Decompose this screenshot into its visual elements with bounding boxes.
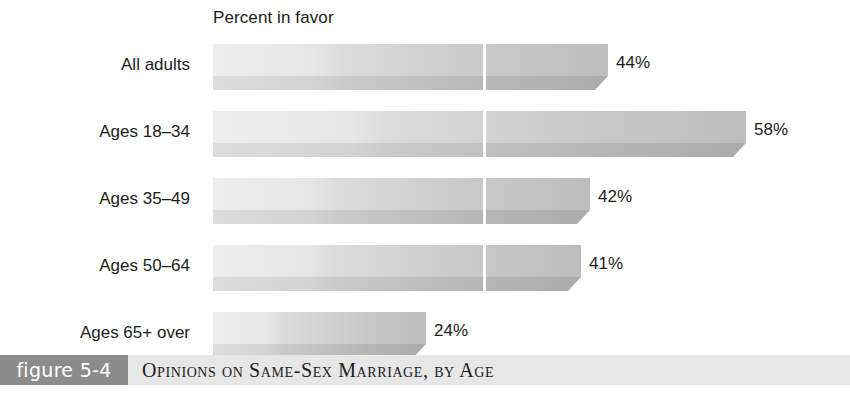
figure-number-badge: figure 5-4	[0, 355, 128, 385]
category-label: All adults	[0, 55, 190, 75]
bar-row: Ages 35–49 42%	[0, 178, 850, 234]
plot-area: All adults 44% Ages 18–34 58% Ages 35–49…	[0, 44, 850, 344]
bar-row: All adults 44%	[0, 44, 850, 100]
vertical-gridline	[483, 44, 486, 344]
value-label: 42%	[598, 187, 632, 207]
value-label: 44%	[616, 53, 650, 73]
bar-top-face	[213, 111, 746, 143]
figure-caption-bar: figure 5-4 Opinions on Same-Sex Marriage…	[0, 355, 850, 385]
axis-title: Percent in favor	[213, 8, 334, 28]
value-label: 24%	[434, 321, 468, 341]
bar-row: Ages 50–64 41%	[0, 245, 850, 301]
bar-bottom-face	[213, 76, 608, 90]
bar	[213, 178, 590, 224]
bar-top-face	[213, 312, 426, 344]
bar-bottom-face	[213, 277, 581, 291]
bar-bottom-face	[213, 143, 746, 157]
bar	[213, 245, 581, 291]
figure-container: Percent in favor All adults 44% Ages 18–…	[0, 0, 850, 403]
bar-row: Ages 18–34 58%	[0, 111, 850, 167]
category-label: Ages 18–34	[0, 122, 190, 142]
value-label: 41%	[589, 254, 623, 274]
bar	[213, 44, 608, 90]
category-label: Ages 65+ over	[0, 323, 190, 343]
category-label: Ages 35–49	[0, 189, 190, 209]
category-label: Ages 50–64	[0, 256, 190, 276]
bar-bottom-face	[213, 210, 590, 224]
figure-caption-title: Opinions on Same-Sex Marriage, by Age	[142, 355, 494, 385]
value-label: 58%	[754, 120, 788, 140]
bar-top-face	[213, 178, 590, 210]
bar	[213, 111, 746, 157]
bar-top-face	[213, 44, 608, 76]
bar	[213, 312, 426, 358]
bar-top-face	[213, 245, 581, 277]
